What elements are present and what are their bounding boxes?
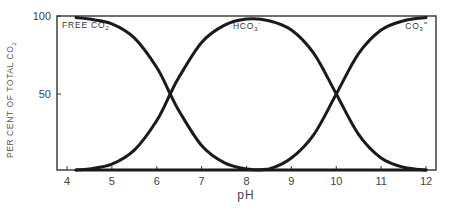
x-tick-label: 12	[420, 175, 432, 187]
carbonate-curve	[76, 18, 426, 170]
x-tick-label: 9	[288, 175, 294, 187]
x-tick-label: 8	[243, 175, 249, 187]
bicarbonate-label: HCO3-	[233, 20, 261, 32]
x-tick-label: 7	[199, 175, 205, 187]
x-tick-label: 11	[375, 175, 386, 187]
bicarbonate-curve	[76, 19, 426, 170]
data-curves	[76, 18, 426, 170]
free-co2-label: FREE CO2	[62, 20, 110, 31]
x-tick-label: 10	[330, 175, 342, 187]
y-tick-label: 50	[39, 88, 51, 100]
carbonate-label: CO3=	[405, 20, 428, 32]
plot-frame	[57, 16, 436, 170]
x-axis-title: pH	[237, 188, 254, 202]
x-tick-label: 6	[154, 175, 160, 187]
free-co2-curve	[76, 18, 426, 170]
plot-border	[57, 16, 436, 170]
x-tick-label: 4	[64, 175, 70, 187]
y-tick-label: 100	[33, 10, 51, 22]
ph-carbonate-distribution-chart: 45678910111250100 FREE CO2HCO3-CO3= pH	[0, 0, 450, 214]
x-tick-label: 5	[109, 175, 115, 187]
